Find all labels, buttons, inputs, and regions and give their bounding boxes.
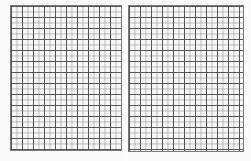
left-page: [0, 0, 123, 161]
left-grid: [10, 5, 122, 151]
right-page: [128, 0, 251, 161]
right-grid: [128, 5, 244, 152]
